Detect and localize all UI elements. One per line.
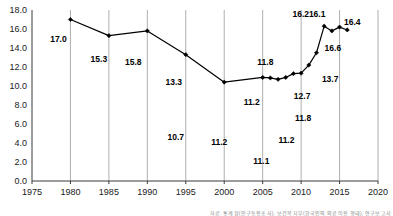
data-value-label: 10.7 (168, 132, 185, 142)
data-series-line (70, 20, 347, 83)
data-value-label: 16.2 (293, 9, 310, 19)
data-value-label: 13.7 (322, 74, 339, 84)
data-point-marker (276, 77, 280, 81)
data-value-label: 11.2 (244, 97, 260, 107)
x-axis-tick-label: 2020 (368, 187, 388, 197)
y-axis-tick-label: 0.0 (14, 176, 27, 186)
data-point-marker (107, 34, 111, 38)
x-axis-tick-label: 2015 (330, 187, 350, 197)
line-chart: 0.02.04.06.08.010.012.014.016.018.019751… (0, 0, 393, 216)
x-axis-tick-label: 1985 (99, 187, 119, 197)
y-axis-tick-label: 6.0 (14, 119, 27, 129)
x-axis-tick-label: 1995 (176, 187, 196, 197)
x-axis-tick-label: 1990 (137, 187, 157, 197)
data-value-label: 12.7 (294, 91, 311, 101)
data-value-label: 17.0 (50, 34, 67, 44)
x-axis-tick-label: 2005 (253, 187, 273, 197)
x-axis-tick-label: 1980 (60, 187, 80, 197)
y-axis-tick-label: 16.0 (9, 24, 27, 34)
data-value-label: 11.2 (278, 135, 294, 145)
data-point-marker (284, 75, 288, 79)
y-axis-tick-label: 12.0 (9, 62, 27, 72)
x-axis-tick-label: 1975 (22, 187, 42, 197)
y-axis-tick-label: 4.0 (14, 138, 27, 148)
x-axis-tick-label: 2000 (214, 187, 234, 197)
data-value-label: 11.1 (253, 156, 269, 166)
data-point-marker (261, 75, 265, 79)
chart-page: 0.02.04.06.08.010.012.014.016.018.019751… (0, 0, 393, 216)
x-axis-tick-label: 2010 (291, 187, 311, 197)
data-value-label: 15.3 (91, 54, 108, 64)
data-value-label: 11.8 (295, 113, 311, 123)
y-axis-tick-label: 2.0 (14, 157, 27, 167)
y-axis-tick-label: 10.0 (9, 81, 27, 91)
data-value-label: 16.4 (344, 17, 361, 27)
data-point-marker (268, 76, 272, 80)
data-value-label: 11.8 (257, 57, 273, 67)
data-point-marker (291, 72, 295, 76)
data-point-marker (345, 28, 349, 32)
chart-footnote: 자료: 통계청(인구동향조사), 보건복지부(한국인의 의료이용 행태), 연구… (210, 209, 391, 216)
data-value-label: 16.6 (325, 43, 342, 53)
y-axis-tick-label: 18.0 (9, 5, 27, 15)
y-axis-tick-label: 8.0 (14, 100, 27, 110)
data-value-label: 15.8 (125, 57, 142, 67)
data-value-label: 16.1 (309, 9, 326, 19)
data-value-label: 13.3 (166, 77, 183, 87)
data-point-marker (337, 25, 341, 29)
data-value-label: 11.2 (211, 137, 227, 147)
data-point-marker (68, 17, 72, 21)
y-axis-tick-label: 14.0 (9, 43, 27, 53)
